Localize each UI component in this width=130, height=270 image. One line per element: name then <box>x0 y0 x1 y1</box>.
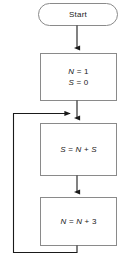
flowchart-canvas: Start N = 1 S = 0 S = N + S N = N + 3 <box>0 0 130 270</box>
node-sum-shape <box>41 124 117 176</box>
node-start-shape <box>39 4 118 26</box>
flowchart-svg <box>0 0 130 270</box>
node-increment-shape <box>41 198 117 246</box>
node-init-shape <box>41 54 117 101</box>
